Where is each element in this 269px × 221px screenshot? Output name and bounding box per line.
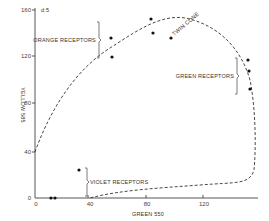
data-point [149,17,152,20]
x-tick-120: 120 [199,201,210,207]
violet-receptors-group: VIOLET RECEPTORS [49,168,148,200]
x-tick-40: 40 [87,201,94,207]
y-tick-40: 40 [24,149,31,155]
data-point [110,55,113,58]
green-receptors-label: GREEN RECEPTORS [176,73,234,79]
y-tick-160: 160 [21,7,32,13]
panel-label: d:5 [41,7,49,13]
violet-receptors-label: VIOLET RECEPTORS [90,179,148,185]
x-tick-80: 80 [144,201,151,207]
x-ticks: 0 40 80 120 [34,195,209,207]
data-point [49,196,52,199]
data-point [151,31,154,34]
twin-cone-group: TWIN CONE [149,11,200,40]
y-tick-0: 0 [28,195,32,201]
x-axis-title: GREEN 550 [132,211,164,217]
data-point [169,36,172,39]
data-point [247,69,250,72]
data-point [246,58,249,61]
data-point [109,36,112,39]
green-receptors-group: GREEN RECEPTORS [176,58,252,94]
twin-cone-label: TWIN CONE [171,11,200,37]
boundary-curve [35,17,255,198]
y-tick-120: 120 [21,53,32,59]
y-axis-title: YELLOW 585 [20,87,26,123]
data-point [248,87,251,90]
x-tick-0: 0 [34,201,38,207]
orange-receptors-group: ORANGE RECEPTORS [33,22,113,59]
data-point [77,168,80,171]
orange-receptors-label: ORANGE RECEPTORS [33,37,96,43]
data-point [53,196,56,199]
scatter-chart: 160 120 80 40 0 0 40 80 120 GREEN 550 YE… [0,0,269,221]
